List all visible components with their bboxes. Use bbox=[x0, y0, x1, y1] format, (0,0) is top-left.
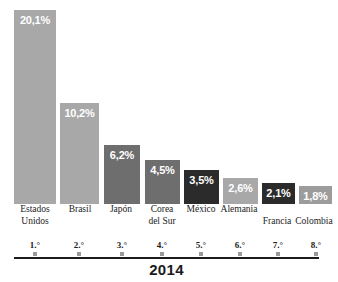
rank-tick-marker bbox=[314, 252, 318, 256]
category-label-line2: del Sur bbox=[138, 216, 186, 228]
bar-colombia: 1,8% bbox=[299, 186, 332, 204]
bar-value-label: 2,1% bbox=[262, 187, 295, 199]
category-label-line1: Brasil bbox=[56, 204, 104, 216]
rank-tick-marker bbox=[238, 252, 242, 256]
bar-estados-unidos: 20,1% bbox=[14, 10, 56, 204]
category-label-line1: Alemania bbox=[210, 204, 268, 216]
rank-label-5: 5.° bbox=[182, 240, 220, 250]
category-labels: Estados Unidos Brasil Japón Corea del Su… bbox=[0, 204, 333, 242]
plot-area: 20,1% 10,2% 6,2% 4,5% 3,5% 2,6% 2,1% 1,8… bbox=[0, 0, 333, 204]
rank-tick-marker bbox=[33, 252, 37, 256]
rank-tick-marker bbox=[199, 252, 203, 256]
category-label-colombia: Colombia bbox=[288, 216, 338, 228]
category-label-estados-unidos: Estados Unidos bbox=[10, 204, 60, 227]
category-label-line2: Unidos bbox=[10, 216, 60, 228]
bar-alemania: 2,6% bbox=[223, 178, 258, 204]
rank-label-3: 3.° bbox=[103, 240, 141, 250]
rank-tick-marker bbox=[77, 252, 81, 256]
rank-labels: 1.° 2.° 3.° 4.° 5.° 6.° 7.° 8.° bbox=[0, 240, 333, 258]
bar-mexico: 3,5% bbox=[184, 170, 219, 204]
bar-corea-del-sur: 4,5% bbox=[145, 160, 180, 204]
bar-value-label: 1,8% bbox=[299, 190, 332, 202]
category-label-line1: Estados bbox=[10, 204, 60, 216]
rank-tick-marker bbox=[276, 252, 280, 256]
rank-label-1: 1.° bbox=[15, 240, 55, 250]
chart-title: 2014 bbox=[0, 261, 333, 278]
category-label-brasil: Brasil bbox=[56, 204, 104, 216]
bar-value-label: 20,1% bbox=[14, 14, 56, 26]
rank-label-4: 4.° bbox=[143, 240, 181, 250]
bar-value-label: 4,5% bbox=[145, 164, 180, 176]
bar-brasil: 10,2% bbox=[60, 103, 99, 204]
category-label-alemania: Alemania bbox=[210, 204, 268, 216]
rank-label-2: 2.° bbox=[60, 240, 98, 250]
rank-label-8: 8.° bbox=[297, 240, 335, 250]
rank-label-7: 7.° bbox=[259, 240, 297, 250]
bar-value-label: 3,5% bbox=[184, 174, 219, 186]
bar-japon: 6,2% bbox=[104, 145, 140, 204]
rank-tick-marker bbox=[160, 252, 164, 256]
category-label-line1: Colombia bbox=[288, 216, 338, 228]
axis-baseline bbox=[14, 257, 319, 259]
rank-tick-marker bbox=[120, 252, 124, 256]
bar-value-label: 2,6% bbox=[223, 182, 258, 194]
bar-value-label: 6,2% bbox=[104, 149, 140, 161]
bar-francia: 2,1% bbox=[262, 183, 295, 204]
bar-value-label: 10,2% bbox=[60, 107, 99, 119]
rank-label-6: 6.° bbox=[221, 240, 259, 250]
